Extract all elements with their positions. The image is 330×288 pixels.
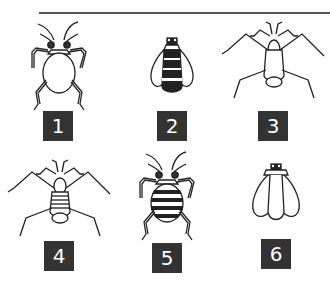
insect-3-illustration (218, 20, 330, 100)
insect-label-3: 3 (258, 111, 288, 141)
insect-label-1: 1 (43, 111, 73, 141)
insect-4-illustration (4, 158, 116, 238)
insect-label-4: 4 (44, 241, 74, 271)
insect-label-5: 5 (152, 243, 182, 273)
insect-1-illustration (24, 18, 94, 110)
insect-2-illustration (142, 38, 202, 100)
insect-label-2: 2 (157, 111, 187, 141)
insect-5-illustration (132, 148, 202, 240)
insect-6-illustration (246, 164, 306, 224)
insect-label-6: 6 (261, 239, 291, 269)
top-rule (39, 12, 330, 14)
